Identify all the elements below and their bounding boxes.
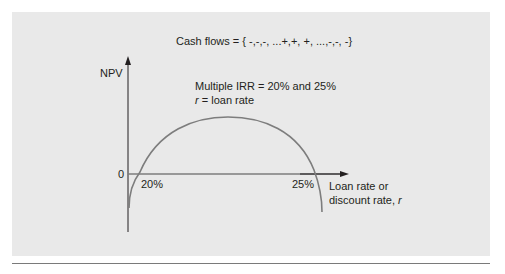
cash-flows-title: Cash flows = { -,-,-, ...+,+, +, ...,-,-… [176, 35, 352, 48]
loan-rate-text: = loan rate [199, 94, 254, 106]
origin-label: 0 [118, 168, 124, 181]
irr-annotation: Multiple IRR = 20% and 25% [195, 80, 336, 93]
x-axis-label-prefix: discount rate, [329, 194, 398, 206]
x-axis-arrow-icon [340, 171, 349, 177]
y-axis-arrow-icon [125, 56, 131, 65]
npv-curve [129, 117, 322, 212]
r-variable: r [398, 194, 402, 206]
irr-tick-25: 25% [292, 178, 314, 191]
loan-rate-annotation: r = loan rate [195, 94, 254, 107]
irr-tick-20: 20% [141, 178, 163, 191]
x-axis-label-line1: Loan rate or [329, 180, 388, 193]
x-axis-label-line2: discount rate, r [329, 194, 402, 207]
y-axis-label: NPV [100, 67, 123, 80]
bottom-rule [12, 263, 490, 264]
